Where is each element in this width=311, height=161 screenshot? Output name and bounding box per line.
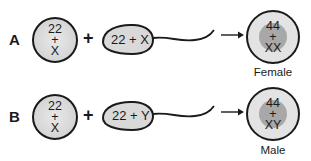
egg-chromosomes: 22 + X (43, 24, 67, 57)
outcome-label: Female (243, 66, 303, 78)
zygote-sex-chromosomes: XY (261, 120, 285, 131)
fertilization-row-b: B 22 + X + 22 + Y 44 + XY Male (0, 80, 311, 160)
sperm-chromosomes: 22 + Y (112, 108, 150, 123)
row-label: A (9, 31, 20, 48)
arrow-icon (221, 32, 244, 39)
arrow-icon (221, 109, 244, 116)
fertilization-row-a: A 22 + X + 22 + X 44 + XX Female (0, 0, 311, 80)
zygote-chromosomes: 44 + XX (261, 21, 285, 54)
sperm-tail-icon (153, 30, 214, 40)
plus-sign: + (83, 28, 94, 49)
outcome-label: Male (243, 144, 303, 156)
egg-sex-chromosome: X (43, 46, 67, 57)
egg-sex-chromosome: X (43, 123, 67, 134)
zygote-chromosomes: 44 + XY (261, 98, 285, 131)
row-label: B (9, 108, 20, 125)
sperm-chromosomes: 22 + X (111, 32, 149, 47)
sperm-tail-icon (153, 106, 214, 116)
plus-sign: + (83, 105, 94, 126)
zygote-sex-chromosomes: XX (261, 43, 285, 54)
egg-chromosomes: 22 + X (43, 101, 67, 134)
